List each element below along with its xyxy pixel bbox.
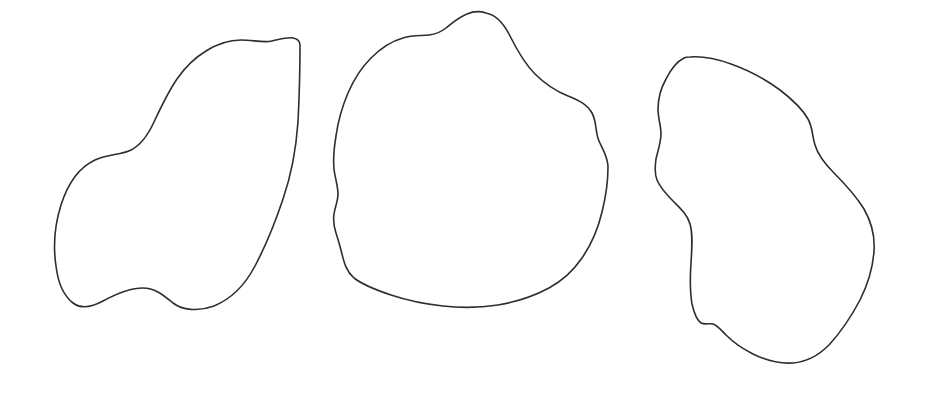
drawing-canvas <box>0 0 926 406</box>
shape-canvas-svg <box>0 0 926 406</box>
canvas-background <box>0 0 926 406</box>
